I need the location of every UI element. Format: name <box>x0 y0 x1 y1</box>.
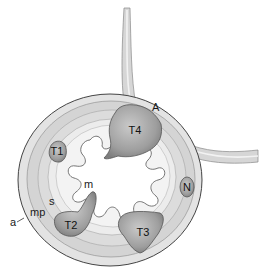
tumor-staging-diagram: N T1 T2 T3 T4 A m s mp a <box>0 0 259 271</box>
adventitia-label: a <box>10 216 17 228</box>
t2-label: T2 <box>65 219 78 231</box>
muscularis-propria-label: mp <box>30 206 45 218</box>
adventitia-pointer <box>17 218 24 222</box>
t1-label: T1 <box>51 145 64 157</box>
lymph-node: N <box>180 177 194 197</box>
t4-label: T4 <box>129 124 142 136</box>
mucosa-label: m <box>84 178 93 190</box>
t3-label: T3 <box>137 226 150 238</box>
node-label: N <box>183 181 191 193</box>
adjacent-structure-label: A <box>152 101 160 113</box>
tumor-t1: T1 <box>49 141 66 162</box>
submucosa-label: s <box>49 195 55 207</box>
